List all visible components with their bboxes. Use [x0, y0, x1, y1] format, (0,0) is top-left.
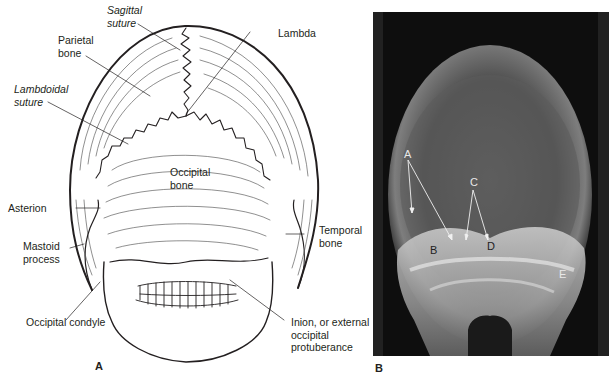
label-line: Lambdoidal	[14, 83, 68, 96]
label-line: protuberance	[291, 341, 369, 354]
label-line: Mastoid	[23, 240, 60, 253]
xray-marker-b: B	[430, 244, 437, 256]
label-line: suture	[14, 96, 68, 109]
label-temporal-bone: Temporal bone	[319, 224, 362, 249]
label-line: process	[23, 253, 60, 266]
panel-b-letter: B	[375, 362, 383, 374]
label-occipital-bone: Occipital bone	[170, 166, 210, 191]
xray-marker-c: C	[470, 176, 478, 188]
xray-marker-d: D	[487, 240, 495, 252]
xray-marker-e: E	[559, 268, 566, 280]
skull-xray-panel: A B C D E B	[370, 0, 614, 378]
label-occipital-condyle: Occipital condyle	[26, 316, 105, 329]
label-sagittal-suture: Sagittal suture	[107, 4, 142, 29]
label-line: occipital	[291, 329, 369, 342]
label-line: suture	[107, 17, 142, 30]
xray-image	[370, 0, 614, 378]
label-line: Parietal	[58, 34, 94, 47]
skull-posterior-drawing-panel: Sagittal suture Parietal bone Lambda Lam…	[0, 0, 370, 378]
xray-marker-a: A	[404, 148, 411, 160]
label-line: Occipital	[170, 166, 210, 179]
label-line: Temporal	[319, 224, 362, 237]
label-lambda: Lambda	[278, 27, 316, 40]
label-line: bone	[319, 237, 362, 250]
label-mastoid-process: Mastoid process	[23, 240, 60, 265]
panel-a-letter: A	[95, 360, 103, 372]
label-line: Inion, or external	[291, 316, 369, 329]
label-line: bone	[58, 47, 94, 60]
label-inion: Inion, or external occipital protuberanc…	[291, 316, 369, 354]
label-lambdoidal-suture: Lambdoidal suture	[14, 83, 68, 108]
label-line: Sagittal	[107, 4, 142, 17]
label-parietal-bone: Parietal bone	[58, 34, 94, 59]
label-line: bone	[170, 179, 210, 192]
label-asterion: Asterion	[8, 202, 47, 215]
